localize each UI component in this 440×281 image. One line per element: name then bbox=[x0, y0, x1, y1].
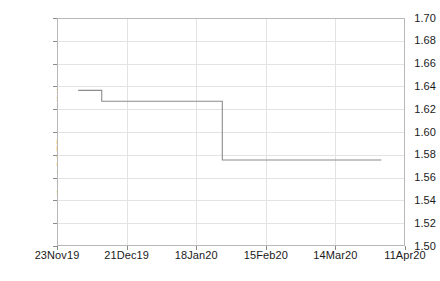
gridline-horizontal bbox=[58, 86, 404, 87]
x-axis-tick-label: 14Mar20 bbox=[300, 250, 370, 261]
gridline-horizontal bbox=[58, 223, 404, 224]
x-axis-tick-label: 15Feb20 bbox=[231, 250, 301, 261]
gridline-vertical bbox=[335, 19, 336, 245]
x-axis-tick-label: 11Apr20 bbox=[370, 250, 440, 261]
gridline-vertical bbox=[266, 19, 267, 245]
gridline-horizontal bbox=[58, 155, 404, 156]
plot-area bbox=[57, 18, 405, 246]
gridline-horizontal bbox=[58, 178, 404, 179]
x-axis-tick-label: 21Dec19 bbox=[92, 250, 162, 261]
gridline-horizontal bbox=[58, 41, 404, 42]
x-axis-tick-label: 23Nov19 bbox=[22, 250, 92, 261]
gridline-horizontal bbox=[58, 200, 404, 201]
gridline-vertical bbox=[127, 19, 128, 245]
gridline-horizontal bbox=[58, 109, 404, 110]
x-axis-tick-label: 18Jan20 bbox=[161, 250, 231, 261]
gridline-horizontal bbox=[58, 64, 404, 65]
gridline-vertical bbox=[196, 19, 197, 245]
gridline-horizontal bbox=[58, 132, 404, 133]
